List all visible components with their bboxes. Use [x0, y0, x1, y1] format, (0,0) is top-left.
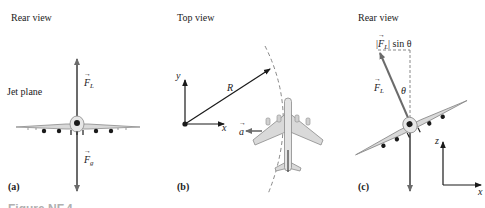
- panel-b-tag: (b): [177, 181, 189, 192]
- jet-plane-rear-icon: [16, 116, 140, 135]
- panel-a: [16, 59, 140, 191]
- bank-angle-label: θ: [401, 85, 406, 96]
- diagram-canvas: [0, 0, 485, 208]
- x-axis-label-c: x: [478, 186, 482, 197]
- x-axis-label-b: x: [222, 122, 226, 133]
- z-axis-label-c: z: [435, 135, 439, 146]
- panel-a-title: Rear view: [11, 12, 52, 23]
- panel-c: [351, 50, 481, 191]
- weight-label-a: Fg: [84, 154, 94, 167]
- center-point: [182, 121, 187, 126]
- lift-label-a: FL: [84, 77, 94, 90]
- radius-vector: [185, 69, 270, 124]
- jet-plane-label: Jet plane: [7, 86, 42, 97]
- jet-plane-top-icon: [253, 98, 323, 172]
- panel-b: [182, 46, 323, 194]
- y-axis-label-b: y: [176, 70, 180, 81]
- panel-b-title: Top view: [177, 12, 214, 23]
- panel-c-tag: (c): [358, 181, 369, 192]
- radius-label: R: [227, 82, 233, 93]
- panel-c-title: Rear view: [358, 12, 399, 23]
- panel-a-tag: (a): [8, 181, 20, 192]
- lift-label-c: FL: [374, 82, 384, 95]
- acceleration-label: a: [239, 126, 244, 137]
- lift-horizontal-component-label: |FL| sin θ: [376, 38, 412, 51]
- figure-caption-partial: Figure NF.4: [8, 202, 73, 208]
